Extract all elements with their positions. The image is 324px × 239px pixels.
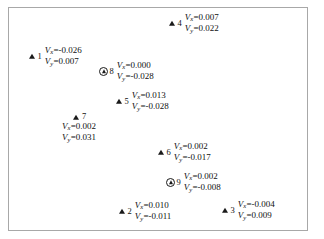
- point-values-6: Vx=0.002Vy=-0.017: [174, 141, 211, 163]
- marker-triangle-glyph-icon: [102, 69, 106, 73]
- value-line-x: Vx=0.013: [132, 90, 169, 101]
- marker-triangle-glyph-icon: [158, 150, 164, 155]
- marker-triangle-glyph-icon: [116, 99, 122, 104]
- value-line-x: Vx=0.007: [185, 12, 219, 23]
- triangle-marker-icon: [156, 148, 165, 157]
- velocity-value-x: =-0.004: [246, 199, 274, 209]
- value-line-y: Vy=0.007: [45, 56, 82, 67]
- velocity-value-y: =-0.028: [140, 101, 168, 111]
- velocity-value-x: =0.013: [140, 90, 165, 100]
- value-line-y: Vy=0.031: [62, 132, 96, 143]
- velocity-value-y: =0.022: [193, 23, 218, 33]
- velocity-value-y: =0.009: [246, 210, 271, 220]
- point-label-6: 6: [167, 148, 171, 157]
- marker-triangle-glyph-icon: [222, 208, 228, 213]
- value-line-x: Vx=0.010: [135, 200, 172, 211]
- value-line-x: Vx=-0.004: [238, 199, 275, 210]
- point-values-4: Vx=0.007Vy=0.022: [185, 12, 219, 34]
- marker-triangle-glyph-icon: [29, 54, 35, 59]
- velocity-value-y: =-0.028: [125, 71, 153, 81]
- triangle-marker-icon: [167, 19, 176, 28]
- point-label-4: 4: [178, 19, 182, 28]
- point-marker-row: 8Vx=0.000Vy=-0.028: [99, 60, 154, 82]
- velocity-value-y: =0.031: [71, 132, 96, 142]
- point-label-8: 8: [110, 67, 114, 76]
- value-line-y: Vy=-0.011: [135, 211, 172, 222]
- data-point-2: 2Vx=0.010Vy=-0.011: [117, 200, 171, 222]
- point-values-7: Vx=0.002Vy=0.031: [62, 121, 96, 143]
- data-point-3: 3Vx=-0.004Vy=0.009: [220, 199, 275, 221]
- point-marker-row: 6Vx=0.002Vy=-0.017: [156, 141, 211, 163]
- point-values-5: Vx=0.013Vy=-0.028: [132, 90, 169, 112]
- point-label-5: 5: [125, 97, 129, 106]
- point-label-7: 7: [82, 112, 86, 121]
- triangle-marker-icon: [72, 112, 81, 121]
- data-point-8: 8Vx=0.000Vy=-0.028: [99, 60, 154, 82]
- data-point-6: 6Vx=0.002Vy=-0.017: [156, 141, 211, 163]
- triangle-marker-icon: [114, 97, 123, 106]
- value-line-x: Vx=0.000: [117, 60, 154, 71]
- data-point-1: 1Vx=-0.026Vy=0.007: [27, 45, 82, 67]
- velocity-value-x: =0.010: [143, 200, 168, 210]
- point-label-9: 9: [177, 178, 181, 187]
- circled-triangle-marker-icon: [166, 178, 175, 187]
- point-values-8: Vx=0.000Vy=-0.028: [117, 60, 154, 82]
- velocity-value-x: =0.000: [125, 60, 150, 70]
- value-line-y: Vy=0.022: [185, 23, 219, 34]
- point-label-2: 2: [128, 207, 132, 216]
- point-label-3: 3: [231, 206, 235, 215]
- data-point-5: 5Vx=0.013Vy=-0.028: [114, 90, 169, 112]
- circled-triangle-marker-icon: [99, 67, 108, 76]
- value-line-y: Vy=-0.017: [174, 152, 211, 163]
- marker-triangle-glyph-icon: [169, 180, 173, 184]
- velocity-value-x: =0.002: [71, 121, 96, 131]
- point-marker-row: 2Vx=0.010Vy=-0.011: [117, 200, 171, 222]
- figure-canvas: 1Vx=-0.026Vy=0.0078Vx=0.000Vy=-0.0284Vx=…: [0, 0, 324, 239]
- triangle-marker-icon: [117, 207, 126, 216]
- triangle-marker-icon: [27, 52, 36, 61]
- data-point-4: 4Vx=0.007Vy=0.022: [167, 12, 219, 34]
- value-line-y: Vy=-0.008: [184, 182, 221, 193]
- value-line-y: Vy=-0.028: [132, 101, 169, 112]
- velocity-value-x: =0.007: [193, 12, 218, 22]
- data-point-9: 9Vx=0.002Vy=-0.008: [166, 171, 221, 193]
- velocity-value-x: =0.002: [182, 141, 207, 151]
- velocity-value-x: =0.002: [192, 171, 217, 181]
- plot-frame: [8, 7, 308, 231]
- point-values-1: Vx=-0.026Vy=0.007: [45, 45, 82, 67]
- marker-triangle-glyph-icon: [73, 114, 79, 119]
- point-marker-row: 9Vx=0.002Vy=-0.008: [166, 171, 221, 193]
- point-values-3: Vx=-0.004Vy=0.009: [238, 199, 275, 221]
- value-line-x: Vx=-0.026: [45, 45, 82, 56]
- value-line-y: Vy=-0.028: [117, 71, 154, 82]
- velocity-value-y: =0.007: [53, 56, 78, 66]
- value-line-x: Vx=0.002: [174, 141, 211, 152]
- velocity-value-y: =-0.017: [182, 152, 210, 162]
- point-marker-row: 7: [62, 112, 96, 121]
- value-line-y: Vy=0.009: [238, 210, 275, 221]
- point-values-9: Vx=0.002Vy=-0.008: [184, 171, 221, 193]
- value-line-x: Vx=0.002: [184, 171, 221, 182]
- velocity-value-y: =-0.011: [143, 211, 171, 221]
- triangle-marker-icon: [220, 206, 229, 215]
- velocity-symbol: V: [62, 121, 68, 131]
- marker-triangle-glyph-icon: [169, 21, 175, 26]
- data-point-7: 7Vx=0.002Vy=0.031: [62, 112, 96, 143]
- point-label-1: 1: [38, 52, 42, 61]
- value-line-x: Vx=0.002: [62, 121, 96, 132]
- point-marker-row: 1Vx=-0.026Vy=0.007: [27, 45, 82, 67]
- velocity-value-x: =-0.026: [53, 45, 81, 55]
- point-marker-row: 3Vx=-0.004Vy=0.009: [220, 199, 275, 221]
- marker-triangle-glyph-icon: [119, 209, 125, 214]
- velocity-value-y: =-0.008: [192, 182, 220, 192]
- point-marker-row: 5Vx=0.013Vy=-0.028: [114, 90, 169, 112]
- velocity-symbol: V: [62, 132, 68, 142]
- point-values-2: Vx=0.010Vy=-0.011: [135, 200, 172, 222]
- point-marker-row: 4Vx=0.007Vy=0.022: [167, 12, 219, 34]
